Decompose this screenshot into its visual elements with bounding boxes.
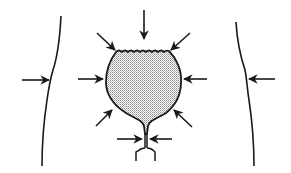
left-wall-line: [42, 16, 61, 166]
diagram-canvas: [0, 0, 291, 173]
arrow-top-right-icon: [171, 33, 190, 50]
right-wall-line: [236, 22, 254, 166]
arrow-bottom-right-icon: [174, 110, 192, 127]
bladder-pressure-diagram: [0, 0, 291, 173]
arrow-top-left-icon: [97, 33, 115, 50]
urethra-neck: [136, 134, 155, 161]
bladder-shape: [106, 51, 181, 135]
arrow-bottom-left-icon: [96, 110, 112, 126]
